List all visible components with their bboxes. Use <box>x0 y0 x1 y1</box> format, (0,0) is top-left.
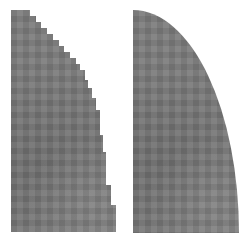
aliased-shape-panel <box>11 10 117 232</box>
antialiased-shape-panel <box>133 10 239 233</box>
